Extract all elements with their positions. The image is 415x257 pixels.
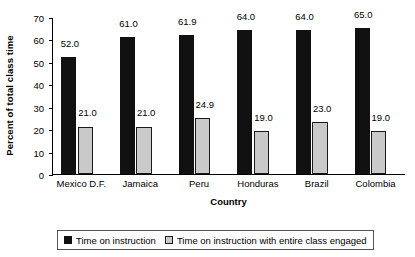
- y-axis-tick-label: 20: [33, 125, 44, 136]
- bar: [355, 28, 370, 174]
- bar: [254, 131, 269, 174]
- y-axis-tick-mark: [49, 175, 53, 176]
- legend-swatch-dark-icon: [64, 236, 72, 244]
- legend-swatch-light-icon: [165, 236, 173, 244]
- bar-value-label: 64.0: [295, 11, 314, 21]
- bar: [237, 30, 252, 174]
- y-axis-title: Percent of total class time: [0, 0, 18, 190]
- bar: [61, 57, 76, 174]
- bar-value-label: 23.0: [313, 103, 332, 113]
- x-axis-tick-label: Jamaica: [111, 178, 170, 194]
- bar-group: 65.019.0: [346, 18, 405, 174]
- bar-value-label: 64.0: [237, 11, 256, 21]
- y-axis-tick-label: 60: [33, 35, 44, 46]
- y-axis-tick-mark: [49, 130, 53, 131]
- legend-entry: Time on instruction with entire class en…: [165, 235, 367, 246]
- plot-area: 52.021.061.021.061.924.964.019.064.023.0…: [52, 18, 405, 175]
- bar-group: 61.924.9: [170, 18, 229, 174]
- bar-group: 61.021.0: [112, 18, 171, 174]
- bar-value-label: 19.0: [372, 112, 391, 122]
- y-axis-tick-labels: 010203040506070: [18, 0, 46, 190]
- x-axis-tick-labels: Mexico D.F.JamaicaPeruHondurasBrazilColo…: [52, 178, 405, 194]
- bar: [78, 127, 93, 174]
- bar-value-label: 61.9: [178, 16, 197, 26]
- bar-chart: Percent of total class time 010203040506…: [0, 0, 415, 257]
- x-axis-tick-label: Peru: [170, 178, 229, 194]
- legend-label: Time on instruction with entire class en…: [177, 235, 367, 246]
- y-axis-tick-mark: [49, 85, 53, 86]
- y-axis-tick-label: 30: [33, 102, 44, 113]
- x-axis-tick-label: Honduras: [228, 178, 287, 194]
- bar-group: 64.023.0: [288, 18, 347, 174]
- bar-group: 64.019.0: [229, 18, 288, 174]
- y-axis-tick-mark: [49, 108, 53, 109]
- y-axis-tick-label: 40: [33, 80, 44, 91]
- bar: [371, 131, 386, 174]
- legend-entry: Time on instruction: [64, 235, 156, 246]
- y-axis-tick-mark: [49, 40, 53, 41]
- x-axis-title: Country: [52, 196, 405, 207]
- y-axis-tick-label: 0: [39, 170, 44, 181]
- bar: [136, 127, 151, 174]
- bar-value-label: 52.0: [61, 38, 80, 48]
- y-axis-tick-label: 70: [33, 13, 44, 24]
- y-axis-tick-label: 10: [33, 147, 44, 158]
- x-axis-tick-label: Brazil: [287, 178, 346, 194]
- y-axis-tick-mark: [49, 18, 53, 19]
- bar-value-label: 21.0: [78, 108, 97, 118]
- bar: [195, 118, 210, 174]
- bar-value-label: 21.0: [137, 108, 156, 118]
- bar-value-label: 24.9: [196, 99, 215, 109]
- y-axis-tick-mark: [49, 63, 53, 64]
- bar-group: 52.021.0: [53, 18, 112, 174]
- bar: [296, 30, 311, 174]
- bar-value-label: 19.0: [254, 112, 273, 122]
- bar: [179, 35, 194, 174]
- y-axis-tick-label: 50: [33, 57, 44, 68]
- chart-legend: Time on instructionTime on instruction w…: [57, 230, 374, 250]
- x-axis-tick-label: Mexico D.F.: [52, 178, 111, 194]
- bar-value-label: 65.0: [354, 9, 373, 19]
- y-axis-title-text: Percent of total class time: [4, 35, 15, 155]
- bar: [120, 37, 135, 174]
- bar-value-label: 61.0: [119, 18, 138, 28]
- x-axis-tick-label: Colombia: [346, 178, 405, 194]
- bar: [312, 122, 327, 174]
- y-axis-tick-mark: [49, 153, 53, 154]
- bar-groups: 52.021.061.021.061.924.964.019.064.023.0…: [53, 18, 405, 174]
- legend-label: Time on instruction: [76, 235, 156, 246]
